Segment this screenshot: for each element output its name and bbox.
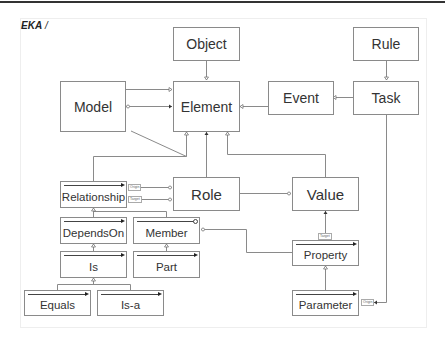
node-role: Role (173, 177, 240, 211)
node-stereotype-bar (137, 221, 195, 222)
node-is-label: Is (89, 261, 98, 273)
node-element-label: Element (181, 99, 232, 115)
node-event: Event (268, 81, 334, 115)
node-equals: Equals (24, 290, 91, 316)
node-value: Value (292, 177, 359, 211)
node-stereotype-bar (296, 294, 354, 295)
node-task-label: Task (372, 90, 401, 106)
node-stereotype-bar (137, 255, 195, 256)
node-role-label: Role (191, 186, 222, 203)
node-stereotype-bar (64, 221, 122, 222)
node-relationship-label: Relationship (62, 191, 125, 203)
node-stereotype-bar (64, 255, 122, 256)
node-model-label: Model (74, 99, 112, 115)
node-event-label: Event (283, 90, 319, 106)
node-part-label: Part (156, 261, 177, 273)
node-member: Member (133, 217, 200, 244)
node-part: Part (133, 251, 200, 278)
node-stereotype-bar (101, 294, 159, 295)
node-property: Property (292, 240, 359, 266)
node-stereotype-bar (64, 185, 122, 186)
node-is-a-label: Is-a (121, 299, 140, 311)
node-property-label: Property (304, 249, 347, 261)
node-task: Task (353, 81, 419, 115)
node-rule-label: Rule (372, 36, 401, 52)
node-relationship: Relationship (60, 181, 127, 208)
edge-label-target: Target (128, 196, 142, 203)
node-model: Model (60, 81, 126, 132)
node-is: Is (60, 251, 127, 278)
node-value-label: Value (307, 186, 344, 203)
edge-label-task-origin: Origin (361, 299, 374, 306)
node-member-label: Member (145, 227, 187, 239)
node-element: Element (173, 81, 240, 132)
edge-label-property-target: Target (318, 233, 332, 240)
node-stereotype-bar (28, 294, 86, 295)
node-object: Object (173, 27, 240, 61)
node-object-label: Object (186, 36, 226, 52)
node-dependson-label: DependsOn (63, 227, 124, 239)
edge-label-origin: Origin (128, 184, 141, 191)
node-stereotype-bar (296, 244, 354, 245)
node-equals-label: Equals (40, 299, 75, 311)
node-dependson: DependsOn (60, 217, 127, 244)
node-parameter-label: Parameter (299, 299, 353, 311)
node-parameter: Parameter (292, 290, 359, 316)
node-is-a: Is-a (97, 290, 164, 316)
node-rule: Rule (353, 27, 419, 61)
